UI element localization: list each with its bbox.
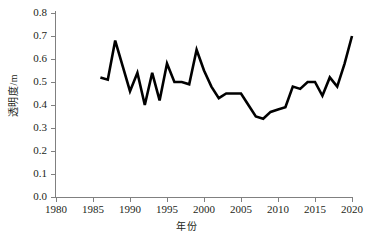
series-line-layer: [0, 0, 373, 242]
x-axis-title: 年份: [0, 218, 373, 233]
series-line-transparency: [100, 36, 352, 119]
y-axis-title: 透明度/m: [5, 46, 20, 146]
transparency-trend-chart: 0.00.10.20.30.40.50.60.70.8 198019851990…: [0, 0, 373, 242]
